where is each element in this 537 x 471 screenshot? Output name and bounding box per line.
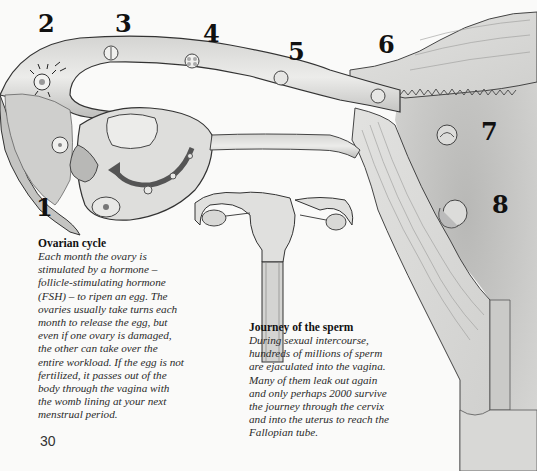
caption-line: the womb lining at your next [38, 395, 238, 408]
caption-line: entire workload. If the egg is not [38, 356, 238, 369]
label-5: 5 [288, 40, 305, 64]
caption-line: and into the uterus to reach the [249, 413, 449, 426]
caption-line: hundreds of millions of sperm [249, 347, 449, 360]
caption-line: During sexual intercourse, [249, 334, 449, 347]
caption-line: the other can take over the [38, 342, 238, 355]
label-4: 4 [203, 22, 220, 46]
caption-line: fertilized, it passes out of the [38, 369, 238, 382]
caption-line: (FSH) – to ripen an egg. The [38, 290, 238, 303]
label-8: 8 [492, 193, 509, 217]
caption-line: the journey through the cervix [249, 400, 449, 413]
caption-line: Each month the ovary is [38, 250, 238, 263]
label-2: 2 [38, 12, 55, 36]
blastocyst-uterus [437, 125, 457, 145]
label-7: 7 [481, 120, 498, 144]
corpus-luteum [107, 114, 158, 149]
ovarian-cycle-title: Ovarian cycle [38, 236, 238, 250]
label-3: 3 [115, 12, 132, 36]
morula [274, 71, 288, 85]
journey-of-sperm-title: Journey of the sperm [249, 320, 449, 334]
caption-line: follicle-stimulating hormone [38, 276, 238, 289]
caption-line: are ejaculated into the vagina. [249, 360, 449, 373]
ovarian-cycle-caption: Ovarian cycle Each month the ovary is st… [38, 236, 238, 422]
label-1: 1 [36, 196, 53, 220]
caption-line: menstrual period. [38, 408, 238, 421]
journey-of-sperm-caption: Journey of the sperm During sexual inter… [249, 320, 449, 440]
caption-line: even if one ovary is damaged, [38, 329, 238, 342]
caption-line: body through the vagina with [38, 382, 238, 395]
caption-line: ovaries usually take turns each [38, 303, 238, 316]
caption-line: Fallopian tube. [249, 426, 449, 439]
page-number: 30 [40, 433, 56, 449]
caption-line: stimulated by a hormone – [38, 263, 238, 276]
label-6: 6 [378, 33, 395, 57]
caption-line: and only perhaps 2000 survive [249, 387, 449, 400]
caption-line: month to release the egg, but [38, 316, 238, 329]
embryo-4-cell [185, 54, 199, 68]
blastocyst-tube [371, 89, 385, 103]
caption-line: Many of them leak out again [249, 374, 449, 387]
